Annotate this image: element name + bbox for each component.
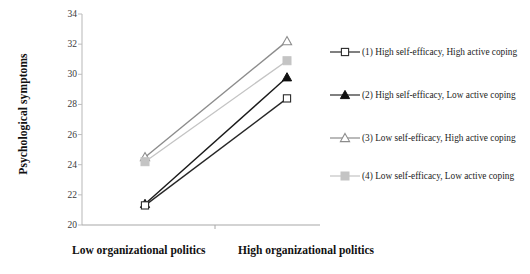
chart-container: Psychological symptoms 3432302826242220 … [0, 0, 530, 274]
open-square-icon [341, 48, 348, 55]
data-point-marker [282, 73, 291, 81]
filled-square-icon [283, 57, 291, 65]
legend-key-filled-triangle [330, 88, 360, 102]
chart-legend: (1) High self-efficacy, High active copi… [330, 44, 528, 176]
filled-square-icon [141, 158, 149, 166]
legend-item-1[interactable]: (1) High self-efficacy, High active copi… [330, 44, 517, 60]
x-axis-category-high: High organizational politics [238, 243, 374, 257]
legend-label: (4) Low self-efficacy, Low active coping [360, 170, 514, 182]
series-line [145, 61, 287, 162]
open-square-icon [283, 95, 290, 102]
data-point-marker [141, 158, 149, 166]
legend-label: (3) Low self-efficacy, High active copin… [360, 132, 516, 144]
series-2 [140, 73, 291, 208]
data-point-marker [341, 48, 348, 55]
legend-item-3[interactable]: (3) Low self-efficacy, High active copin… [330, 130, 516, 146]
legend-key-filled-square [330, 169, 360, 183]
data-point-marker [282, 37, 291, 45]
open-triangle-icon [282, 37, 291, 45]
open-square-icon [141, 202, 148, 209]
legend-key-open-triangle [330, 131, 360, 145]
series-4 [141, 57, 291, 166]
legend-label: (2) High self-efficacy, Low active copin… [360, 89, 516, 101]
x-axis-category-low: Low organizational politics [72, 243, 206, 257]
data-point-marker [283, 95, 290, 102]
series-line [145, 98, 287, 205]
filled-square-icon [341, 172, 349, 180]
legend-item-2[interactable]: (2) High self-efficacy, Low active copin… [330, 87, 516, 103]
legend-item-4[interactable]: (4) Low self-efficacy, Low active coping [330, 168, 514, 184]
filled-triangle-icon [282, 73, 291, 81]
legend-key-open-square [330, 45, 360, 59]
legend-label: (1) High self-efficacy, High active copi… [360, 46, 517, 58]
data-point-marker [341, 172, 349, 180]
data-point-marker [141, 202, 148, 209]
series-3 [140, 37, 291, 161]
data-point-marker [283, 57, 291, 65]
